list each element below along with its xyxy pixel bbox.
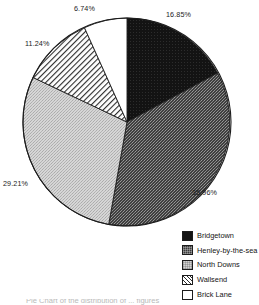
solid-black-swatch-icon [182, 231, 193, 241]
figure-caption-text: Pie Chart of the distribution of ... fig… [26, 299, 159, 305]
pct-label-bridgetown: 16.85% [166, 11, 191, 18]
light-gray-swatch-icon [182, 260, 193, 270]
diagonal-hatch-swatch-icon [182, 275, 193, 285]
figure-caption-cropped: Pie Chart of the distribution of ... fig… [0, 299, 259, 305]
legend-item-bridgetown: Bridgetown [182, 229, 259, 242]
legend-item-north-downs: North Downs [182, 259, 259, 272]
chart-legend: Bridgetown Henley-by-the-sea North Downs… [182, 229, 259, 303]
legend-label-north-downs: North Downs [197, 261, 240, 268]
pct-label-north-downs: 29.21% [3, 180, 28, 187]
legend-label-wallsend: Wallsend [197, 276, 227, 283]
pct-label-brick-lane: 6.74% [74, 5, 95, 12]
pie-chart-figure: 16.85% 35.96% 29.21% 11.24% 6.74% Bridge… [0, 0, 259, 305]
legend-item-henley-by-the-sea: Henley-by-the-sea [182, 244, 259, 257]
dark-dither-swatch-icon [182, 245, 193, 255]
pct-label-henley-by-the-sea: 35.96% [192, 189, 217, 196]
legend-item-wallsend: Wallsend [182, 273, 259, 286]
legend-label-brick-lane: Brick Lane [197, 291, 232, 298]
legend-label-bridgetown: Bridgetown [197, 232, 234, 239]
legend-label-henley-by-the-sea: Henley-by-the-sea [197, 247, 257, 254]
pct-label-wallsend: 11.24% [25, 40, 49, 47]
